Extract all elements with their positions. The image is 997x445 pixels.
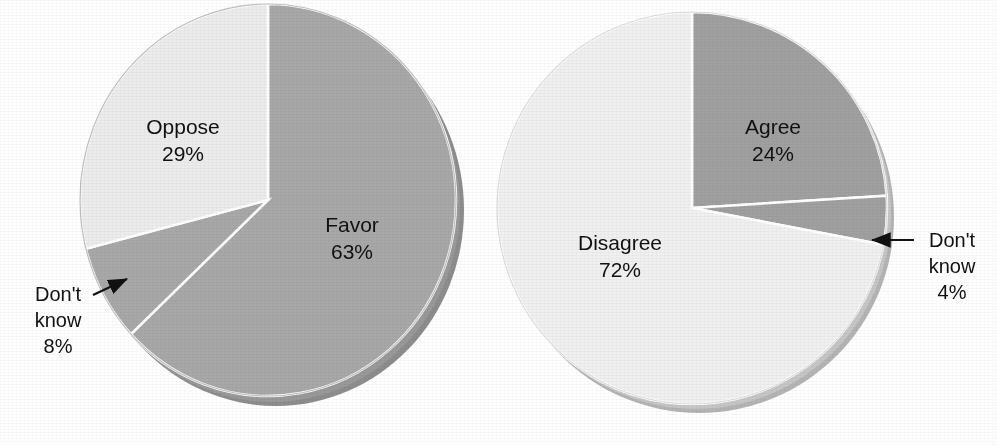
left-pie-slices xyxy=(80,4,456,396)
label-dont-know-left-line2: know xyxy=(35,309,82,331)
right-pie-slices xyxy=(497,12,887,404)
label-agree: Agree xyxy=(745,115,801,138)
label-oppose: Oppose xyxy=(146,115,220,138)
label-agree-value: 24% xyxy=(752,142,794,165)
label-oppose-value: 29% xyxy=(162,142,204,165)
label-dont-know-left-value: 8% xyxy=(44,335,73,357)
left-pie-chart: Favor 63% Oppose 29% Don't know 8% xyxy=(35,4,464,406)
label-favor-value: 63% xyxy=(331,240,373,263)
label-dont-know-right-value: 4% xyxy=(938,281,967,303)
label-favor: Favor xyxy=(325,213,379,236)
pie-chart-figure: Favor 63% Oppose 29% Don't know 8% xyxy=(0,0,997,445)
slice-agree[interactable] xyxy=(692,12,887,208)
label-dont-know-right-line2: know xyxy=(929,255,976,277)
label-disagree: Disagree xyxy=(578,231,662,254)
label-disagree-value: 72% xyxy=(599,258,641,281)
right-pie-chart: Agree 24% Disagree 72% Don't know 4% xyxy=(497,12,976,413)
label-dont-know-left-line1: Don't xyxy=(35,283,82,305)
pie-charts-svg: Favor 63% Oppose 29% Don't know 8% xyxy=(0,0,997,445)
label-dont-know-right-line1: Don't xyxy=(929,229,976,251)
